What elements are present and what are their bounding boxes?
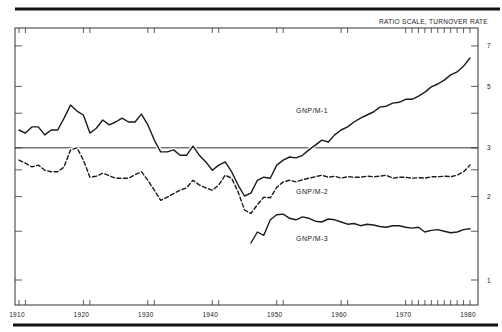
y-tick-label: 5 <box>487 83 491 90</box>
x-tick-label: 1980 <box>460 311 476 318</box>
x-tick-label: 1960 <box>331 311 347 318</box>
scale-note: RATIO SCALE, TURNOVER RATE <box>379 18 488 25</box>
chart-canvas: RATIO SCALE, TURNOVER RATE 1910192019301… <box>0 0 502 332</box>
y-tick-label: 1 <box>487 277 491 284</box>
background <box>0 0 502 332</box>
series-label: GNP/M-3 <box>296 235 328 242</box>
x-tick-label: 1950 <box>267 311 283 318</box>
series-label: GNP/M-1 <box>296 107 328 114</box>
series-label: GNP/M-2 <box>296 188 328 195</box>
y-tick-label: 2 <box>487 193 491 200</box>
x-tick-label: 1970 <box>396 311 412 318</box>
x-tick-label: 1910 <box>9 311 25 318</box>
y-tick-label: 3 <box>487 144 491 151</box>
x-tick-label: 1920 <box>74 311 90 318</box>
x-tick-label: 1930 <box>138 311 154 318</box>
x-tick-label: 1940 <box>202 311 218 318</box>
y-tick-label: 7 <box>487 42 491 49</box>
